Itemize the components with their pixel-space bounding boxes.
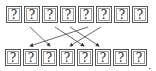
bottom-box: ? bbox=[59, 49, 75, 66]
bottom-box: ? bbox=[77, 49, 93, 66]
trailing-period: . bbox=[148, 60, 151, 71]
bottom-box: ? bbox=[5, 49, 21, 66]
bottom-box: ? bbox=[131, 49, 147, 66]
bottom-box: ? bbox=[41, 49, 57, 66]
bottom-row: ? ? ? ? ? ? ? ? bbox=[5, 49, 149, 66]
bottom-box: ? bbox=[23, 49, 39, 66]
bottom-box: ? bbox=[95, 49, 111, 66]
arrow bbox=[30, 27, 50, 46]
bottom-box: ? bbox=[113, 49, 129, 66]
